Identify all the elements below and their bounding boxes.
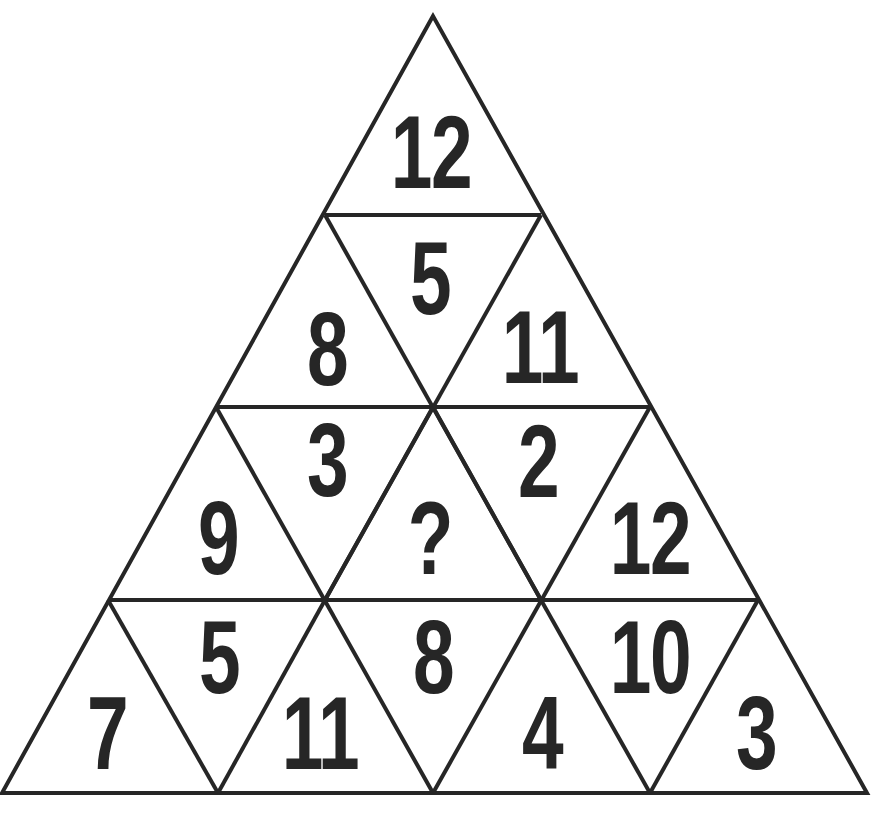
cell-r3-down-2: 2 — [518, 409, 558, 513]
cell-r3-up-2-unknown: ? — [408, 486, 452, 590]
cell-r4-up-3: 4 — [522, 681, 562, 785]
cell-r2-up-2: 11 — [502, 295, 578, 399]
cell-r2-down-1: 5 — [410, 226, 450, 330]
cell-r1-up-1: 12 — [391, 100, 471, 204]
cell-r4-up-1: 7 — [87, 681, 127, 785]
cell-r4-down-2: 8 — [413, 605, 453, 709]
cell-r4-up-2: 11 — [282, 681, 358, 785]
cell-r4-down-1: 5 — [199, 605, 239, 709]
triangle-puzzle: 12 5 8 11 3 2 9 ? 12 5 8 10 7 11 4 3 — [0, 0, 876, 815]
cell-r4-down-3: 10 — [610, 605, 690, 709]
cell-r2-up-1: 8 — [307, 297, 347, 401]
cell-r3-up-1: 9 — [198, 486, 238, 590]
cell-r3-up-3: 12 — [610, 486, 690, 590]
cell-r3-down-1: 3 — [307, 408, 347, 512]
cell-r4-up-4: 3 — [736, 681, 776, 785]
